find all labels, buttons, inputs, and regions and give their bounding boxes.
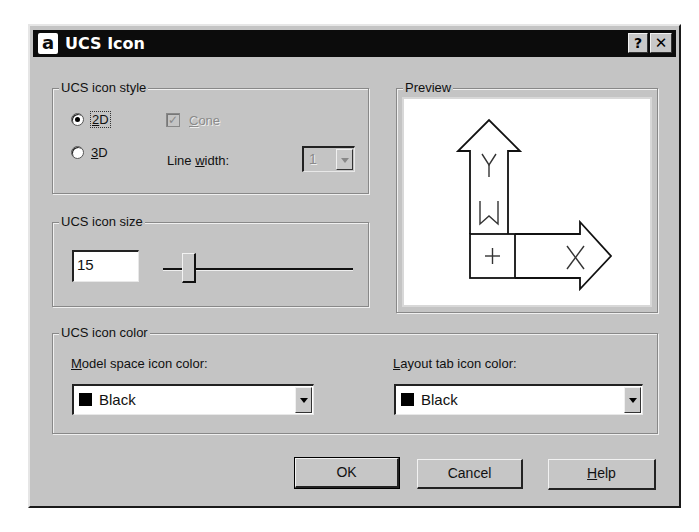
model-space-label-text: odel space icon color: <box>82 356 208 371</box>
icon-size-slider-thumb[interactable] <box>182 253 196 283</box>
icon-style-group: UCS icon style 2D 3D ✓ Cone Line width: … <box>52 88 369 194</box>
icon-color-group: UCS icon color Model space icon color: B… <box>52 333 658 434</box>
help-icon[interactable]: ? <box>628 33 648 53</box>
window-title: UCS Icon <box>65 34 145 53</box>
mnemonic-m: M <box>71 356 82 371</box>
mnemonic-h: H <box>587 465 597 481</box>
layout-tab-color-label: Layout tab icon color: <box>393 356 517 371</box>
chevron-down-icon[interactable] <box>336 149 353 170</box>
ok-button[interactable]: OK <box>295 458 399 488</box>
icon-size-input[interactable]: 15 <box>72 250 139 282</box>
radio-2d-circle[interactable] <box>71 113 84 126</box>
ucs-icon-dialog: a UCS Icon ? ✕ UCS icon style 2D 3D ✓ Co… <box>28 24 681 508</box>
icon-style-group-label: UCS icon style <box>59 80 148 95</box>
icon-size-group: UCS icon size 15 <box>52 222 369 307</box>
cone-text: one <box>198 113 220 128</box>
radio-3d-label: 3D <box>91 145 108 160</box>
mnemonic-w: w <box>195 153 204 168</box>
radio-2d-text: D <box>99 112 108 127</box>
black-color-swatch <box>79 393 92 406</box>
close-icon[interactable]: ✕ <box>650 33 672 53</box>
model-space-color-value: Black <box>99 391 136 408</box>
cone-checkbox[interactable]: ✓ <box>166 113 180 127</box>
layout-tab-color-dropdown[interactable]: Black <box>394 384 643 415</box>
layout-tab-color-value: Black <box>421 391 458 408</box>
cone-label: Cone <box>189 113 220 128</box>
radio-selected-dot <box>75 117 80 122</box>
title-bar[interactable]: a UCS Icon ? ✕ <box>33 30 676 57</box>
line-width-text-pre: Line <box>167 153 195 168</box>
icon-color-group-label: UCS icon color <box>59 325 150 340</box>
chevron-down-icon[interactable] <box>295 387 312 413</box>
autocad-app-icon: a <box>38 33 58 54</box>
preview-group-label: Preview <box>403 80 453 95</box>
radio-3d-circle[interactable] <box>71 146 84 159</box>
radio-3d[interactable]: 3D <box>71 144 131 162</box>
model-space-color-dropdown[interactable]: Black <box>72 384 314 415</box>
line-width-text-post: idth: <box>205 153 230 168</box>
cancel-button[interactable]: Cancel <box>417 459 523 489</box>
line-width-label: Line width: <box>167 153 229 168</box>
cone-checkbox-row[interactable]: ✓ Cone <box>166 113 256 131</box>
radio-3d-text: D <box>98 145 107 160</box>
ucs-2d-icon-preview: Y <box>404 99 650 305</box>
model-space-color-label: Model space icon color: <box>71 356 208 371</box>
help-button-text: elp <box>597 465 616 481</box>
preview-group: Preview <box>396 88 658 313</box>
preview-canvas: Y <box>402 97 652 307</box>
black-color-swatch <box>401 393 414 406</box>
line-width-value: 1 <box>309 151 317 167</box>
radio-2d[interactable]: 2D <box>71 111 131 129</box>
radio-2d-label: 2D <box>90 111 111 128</box>
help-button[interactable]: Help <box>548 459 656 490</box>
line-width-dropdown[interactable]: 1 <box>302 146 355 172</box>
layout-tab-label-text: ayout tab icon color: <box>400 356 516 371</box>
chevron-down-icon[interactable] <box>624 387 641 413</box>
mnemonic-c: C <box>189 113 198 128</box>
icon-size-group-label: UCS icon size <box>59 214 145 229</box>
